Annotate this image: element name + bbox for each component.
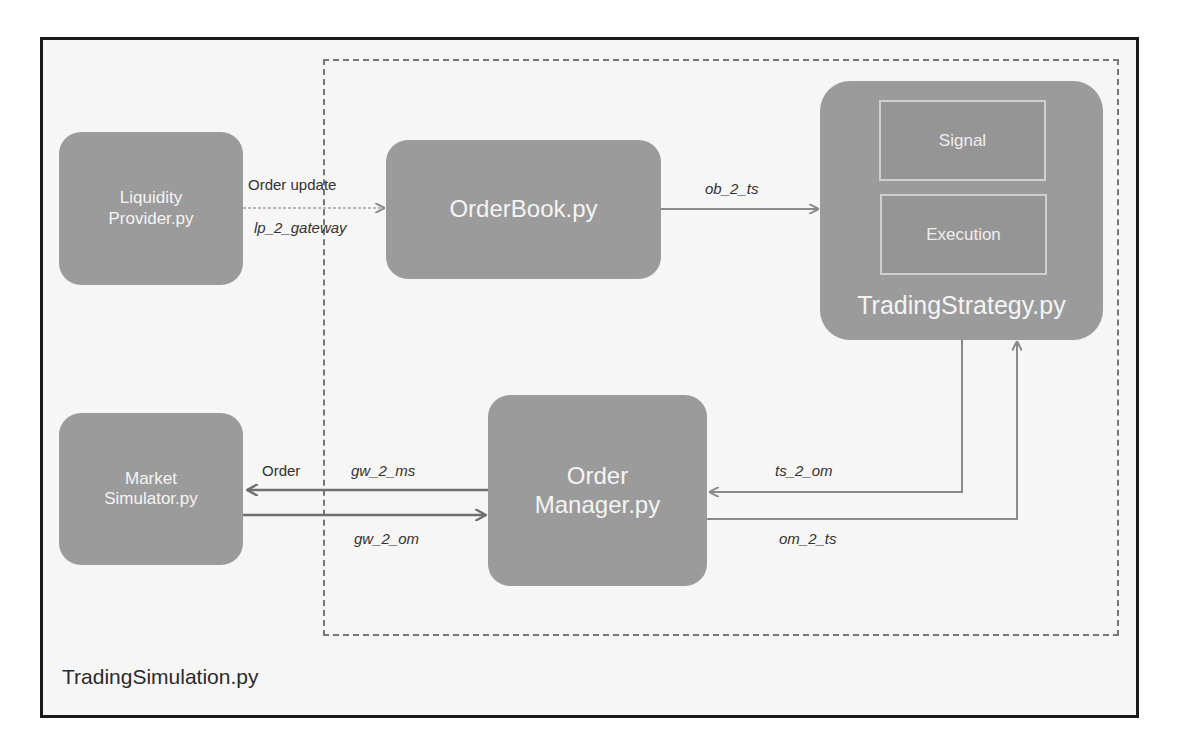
trading-strategy-label: TradingStrategy.py	[820, 291, 1103, 320]
liquidity-provider-node: Liquidity Provider.py	[59, 132, 243, 285]
execution-label: Execution	[926, 225, 1001, 245]
ts-2-om-label: ts_2_om	[775, 462, 833, 479]
om-2-ts-label: om_2_ts	[779, 530, 837, 547]
signal-label: Signal	[939, 131, 986, 151]
signal-component: Signal	[879, 100, 1046, 181]
order-book-label: OrderBook.py	[449, 195, 597, 224]
order-book-node: OrderBook.py	[386, 140, 661, 279]
liquidity-provider-label: Liquidity Provider.py	[108, 188, 193, 229]
ob-2-ts-label: ob_2_ts	[705, 180, 758, 197]
order-update-label: Order update	[248, 176, 336, 193]
gw-2-om-label: gw_2_om	[354, 530, 419, 547]
gw-2-ms-label: gw_2_ms	[351, 462, 415, 479]
order-manager-label: Order Manager.py	[535, 462, 660, 520]
market-simulator-label: Market Simulator.py	[104, 469, 198, 510]
trading-simulation-label: TradingSimulation.py	[62, 665, 259, 689]
order-label: Order	[262, 462, 300, 479]
lp-2-gateway-label: lp_2_gateway	[254, 219, 347, 236]
execution-component: Execution	[880, 194, 1047, 275]
order-manager-node: Order Manager.py	[488, 395, 707, 586]
market-simulator-node: Market Simulator.py	[59, 413, 243, 565]
